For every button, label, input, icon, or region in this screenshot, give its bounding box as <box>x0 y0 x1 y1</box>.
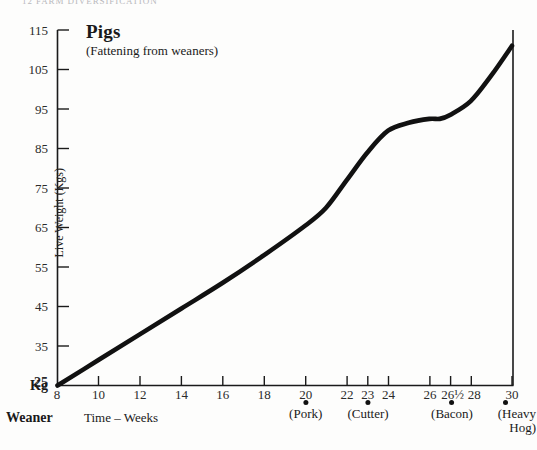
x-tick-label: 8 <box>54 388 61 401</box>
annotation-cutter: (Cutter) <box>347 400 388 421</box>
y-tick-label: 95 <box>14 103 48 116</box>
annotation-dot <box>450 400 455 405</box>
chart-canvas <box>0 0 537 450</box>
annotation-label: (Heavy <box>474 407 536 421</box>
y-tick-label: 105 <box>14 63 48 76</box>
y-tick-label: 45 <box>14 300 48 313</box>
x-tick-label: 14 <box>175 388 188 401</box>
x-tick-label: 16 <box>216 388 229 401</box>
annotation-dot <box>503 400 508 405</box>
x-tick-label: 10 <box>92 388 105 401</box>
annotation-heavy-hog: (Heavy Hog) <box>474 400 536 435</box>
y-tick-label: 35 <box>14 340 48 353</box>
chart-page: 12 FARM DIVERSIFICATION <box>0 0 537 450</box>
plot-area: 115 105 95 85 75 65 55 45 35 25 Kg Live … <box>0 0 537 450</box>
annotation-bacon: (Bacon) <box>431 400 473 421</box>
x-tick-marks <box>99 376 513 386</box>
annotation-label: (Bacon) <box>431 406 473 421</box>
annotation-dot <box>366 400 371 405</box>
y-tick-label: 115 <box>14 24 48 37</box>
annotation-dot <box>303 400 308 405</box>
annotation-label: (Pork) <box>289 406 322 421</box>
y-tick-label: 85 <box>14 142 48 155</box>
x-axis-title: Time – Weeks <box>84 411 158 425</box>
chart-title: Pigs <box>86 22 121 42</box>
y-tick-label: 55 <box>14 261 48 274</box>
y-axis-title: Live Weight (Kgs) <box>52 168 67 257</box>
y-unit-label: Kg <box>14 379 48 393</box>
y-tick-label: 65 <box>14 221 48 234</box>
origin-label: Weaner <box>6 410 53 425</box>
x-tick-label: 18 <box>258 388 271 401</box>
annotation-label-line2: Hog) <box>474 421 536 435</box>
chart-subtitle: (Fattening from weaners) <box>86 44 218 58</box>
y-tick-label: 75 <box>14 182 48 195</box>
growth-curve <box>58 46 513 386</box>
x-tick-label: 12 <box>134 388 147 401</box>
annotation-pork: (Pork) <box>289 400 322 421</box>
annotation-label: (Cutter) <box>347 406 388 421</box>
